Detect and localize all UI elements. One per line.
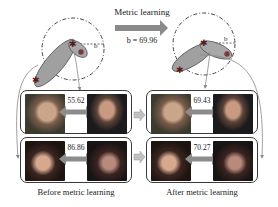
after-pair-panel-male: 69.43 bbox=[146, 90, 258, 134]
circle-marker bbox=[224, 51, 229, 56]
metric-learning-arrow-body bbox=[115, 25, 161, 31]
face-image-female-b bbox=[213, 141, 253, 181]
metric-learning-label: Metric learning bbox=[112, 7, 172, 17]
face-image-male-b bbox=[87, 94, 127, 134]
star-marker: ✱ bbox=[200, 38, 208, 48]
before-caption: Before metric learning bbox=[16, 187, 136, 197]
threshold-label: b = 69.96 bbox=[112, 36, 172, 45]
before-pair-panel-female: 86.86 bbox=[20, 137, 132, 183]
connector-curve bbox=[74, 52, 80, 90]
metric-learning-arrow-head bbox=[160, 20, 168, 36]
transition-arrow-top bbox=[134, 109, 145, 121]
radius-label-right: b bbox=[224, 35, 228, 43]
face-image-male-b bbox=[213, 94, 253, 134]
face-image-female-b bbox=[87, 141, 127, 181]
before-pair-panel-male: 55.62 bbox=[20, 90, 132, 134]
after-caption: After metric learning bbox=[142, 187, 262, 197]
star-marker: ✱ bbox=[69, 39, 77, 49]
star-marker: ✱ bbox=[32, 75, 40, 85]
circle-marker bbox=[78, 49, 83, 54]
star-marker: ✱ bbox=[176, 65, 184, 75]
transition-arrow-bottom bbox=[134, 151, 145, 163]
radius-label-left: b bbox=[94, 42, 98, 50]
after-pair-panel-female: 70.27 bbox=[146, 137, 258, 183]
